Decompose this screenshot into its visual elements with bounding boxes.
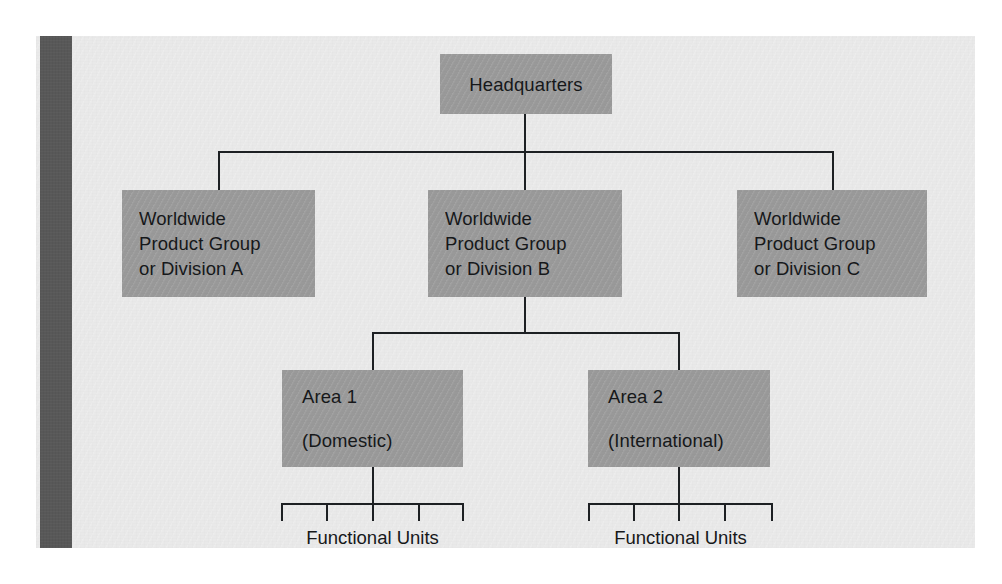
node-area-1[interactable]: Area 1 (Domestic) [282,370,463,467]
comb-tick-left-4 [418,503,420,521]
node-division-c[interactable]: Worldwide Product Group or Division C [737,190,927,297]
node-division-c-line2: Product Group [754,231,927,256]
node-division-c-line3: or Division C [754,256,927,281]
comb-tick-left-2 [326,503,328,521]
leaf-functional-units-left: Functional Units [281,526,464,549]
leaf-functional-units-right: Functional Units [588,526,773,549]
node-area-2-line2: (International) [608,428,770,453]
node-area-1-line1: Area 1 [302,384,463,409]
comb-tick-left-5 [462,503,464,521]
connector-level2-bus [373,332,680,334]
node-division-b-line1: Worldwide [445,206,622,231]
node-division-a-line2: Product Group [139,231,315,256]
connector-division-b-stem [524,297,526,334]
connector-drop-area-2 [678,332,680,370]
comb-tick-right-1 [588,503,590,521]
node-headquarters-label: Headquarters [469,72,582,97]
node-division-b-line2: Product Group [445,231,622,256]
comb-tick-right-3 [678,503,680,521]
node-headquarters[interactable]: Headquarters [440,54,612,114]
comb-tick-right-4 [724,503,726,521]
comb-tick-right-2 [633,503,635,521]
comb-tick-right-5 [771,503,773,521]
node-division-b[interactable]: Worldwide Product Group or Division B [428,190,622,297]
node-area-1-line2: (Domestic) [302,428,463,453]
org-chart-canvas: Headquarters Worldwide Product Group or … [0,0,1002,584]
node-division-a-line3: or Division A [139,256,315,281]
connector-area-1-stem [372,467,374,504]
node-division-a-line1: Worldwide [139,206,315,231]
connector-drop-division-a [218,151,220,190]
node-division-b-line3: or Division B [445,256,622,281]
connector-drop-division-c [832,151,834,190]
node-area-2[interactable]: Area 2 (International) [588,370,770,467]
connector-area-2-stem [678,467,680,504]
comb-bar-right [588,503,773,505]
connector-drop-area-1 [372,332,374,370]
organizational-chart-figure: Headquarters Worldwide Product Group or … [0,0,1002,584]
connector-level1-bus [219,151,834,153]
node-division-a[interactable]: Worldwide Product Group or Division A [122,190,315,297]
comb-tick-left-3 [372,503,374,521]
connector-drop-division-b [524,151,526,190]
node-division-c-line1: Worldwide [754,206,927,231]
comb-tick-left-1 [281,503,283,521]
node-area-2-line1: Area 2 [608,384,770,409]
connector-hq-stem [524,114,526,153]
